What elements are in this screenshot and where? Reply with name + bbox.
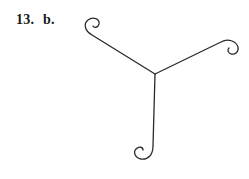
arm-down <box>135 74 155 159</box>
three-armed-curl-figure <box>0 0 249 179</box>
arm-upper-right <box>155 40 238 74</box>
arm-upper-left <box>85 18 155 74</box>
